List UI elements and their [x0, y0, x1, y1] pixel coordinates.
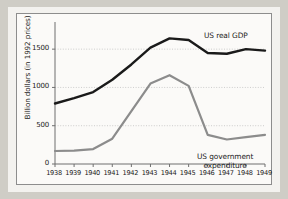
- series-label-gdp: US real GDP: [204, 32, 248, 41]
- y-axis-label: Billion dollars (in 1992 prices): [23, 2, 32, 134]
- series-label-government-line2: expenditure: [203, 161, 246, 170]
- y-tick-label-1500: 1500: [23, 44, 49, 52]
- series-label-government: US government expenditure: [197, 153, 253, 170]
- y-tick-label-500: 500: [23, 121, 49, 129]
- figure-panel: Billion dollars (in 1992 prices) 0500100…: [8, 7, 280, 192]
- y-tick-label-1000: 1000: [23, 82, 49, 90]
- x-tick-label-1949: 1949: [253, 169, 275, 177]
- y-tick-label-0: 0: [23, 159, 49, 167]
